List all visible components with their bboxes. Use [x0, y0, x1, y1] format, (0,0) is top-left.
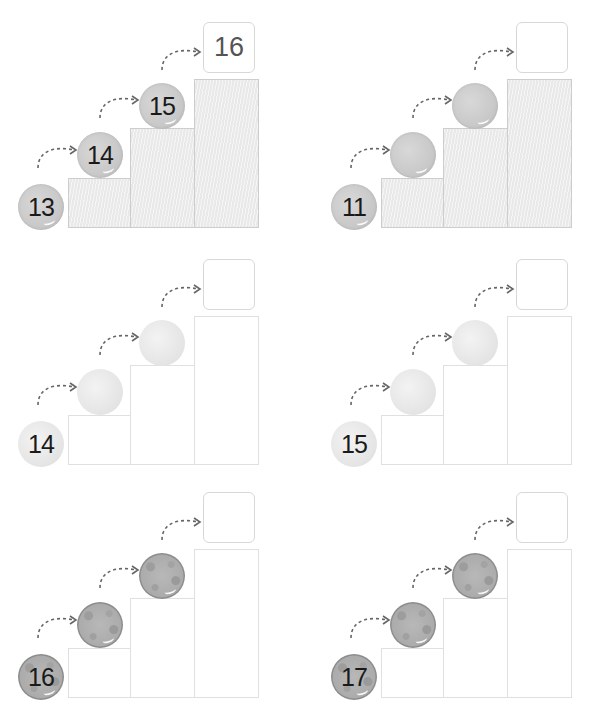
step-3	[194, 316, 259, 465]
number-ball	[390, 602, 436, 648]
step-2	[130, 128, 195, 228]
stair-panel-1: 13 14 15 16	[0, 0, 280, 225]
number-ball: 15	[331, 421, 377, 467]
number-ball	[77, 369, 123, 415]
step-2	[130, 598, 195, 698]
answer-box[interactable]	[203, 492, 255, 543]
step-1	[381, 648, 444, 698]
stair-panel-5: 16	[0, 470, 280, 695]
number-ball	[452, 553, 498, 599]
step-3	[507, 549, 572, 698]
step-2	[443, 598, 508, 698]
step-1	[381, 415, 444, 465]
number-ball	[139, 553, 185, 599]
answer-box[interactable]	[516, 22, 568, 73]
number-ball: 13	[18, 184, 64, 230]
step-1	[68, 415, 131, 465]
number-ball: 17	[331, 654, 377, 700]
number-ball: 14	[77, 132, 123, 178]
number-ball: 16	[18, 654, 64, 700]
step-3	[194, 79, 259, 228]
stair-panel-3: 14	[0, 237, 280, 462]
number-ball: 15	[139, 83, 185, 129]
number-ball	[390, 369, 436, 415]
answer-box[interactable]	[516, 259, 568, 310]
number-ball	[390, 132, 436, 178]
stair-panel-2: 11	[313, 0, 590, 225]
stair-panel-6: 17	[313, 470, 590, 695]
number-ball: 14	[18, 421, 64, 467]
step-1	[381, 178, 444, 228]
step-1	[68, 178, 131, 228]
step-3	[194, 549, 259, 698]
answer-box[interactable]	[203, 259, 255, 310]
number-ball	[139, 320, 185, 366]
number-ball	[77, 602, 123, 648]
number-ball	[452, 83, 498, 129]
stair-panel-4: 15	[313, 237, 590, 462]
number-ball	[452, 320, 498, 366]
number-ball: 11	[331, 184, 377, 230]
step-3	[507, 79, 572, 228]
step-1	[68, 648, 131, 698]
step-2	[443, 365, 508, 465]
step-2	[130, 365, 195, 465]
answer-box[interactable]: 16	[203, 22, 255, 73]
step-3	[507, 316, 572, 465]
step-2	[443, 128, 508, 228]
answer-box[interactable]	[516, 492, 568, 543]
